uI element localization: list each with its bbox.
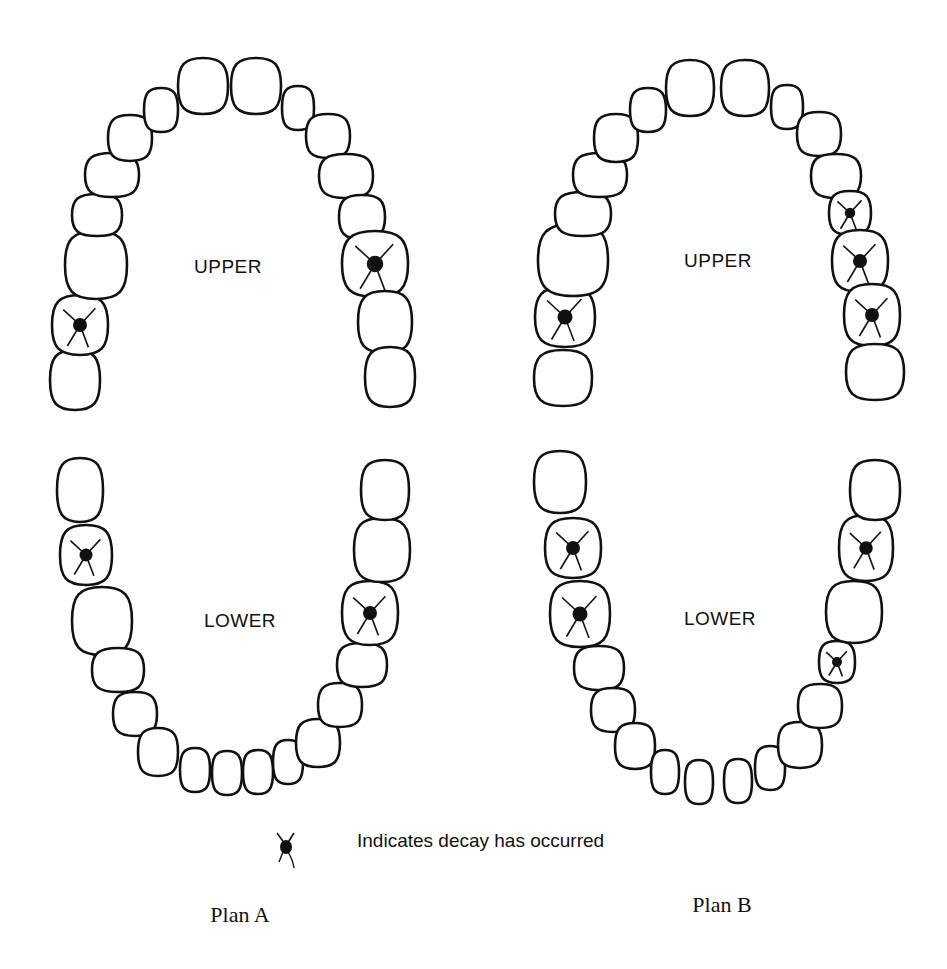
tooth <box>72 194 122 236</box>
tooth <box>555 192 611 236</box>
decay-dot-icon <box>566 541 580 555</box>
decay-dot-icon <box>859 541 873 555</box>
decayed-tooth <box>839 515 893 581</box>
teeth-drawing <box>0 0 947 969</box>
decayed-tooth <box>342 581 398 645</box>
tooth <box>685 760 713 804</box>
tooth <box>318 683 362 727</box>
legend-text: Indicates decay has occurred <box>357 830 604 852</box>
tooth <box>243 750 273 794</box>
tooth <box>361 460 409 520</box>
tooth <box>212 751 242 795</box>
tooth <box>615 723 655 769</box>
tooth <box>354 518 410 582</box>
plan-b-upper-arch <box>534 60 904 406</box>
tooth <box>65 231 127 299</box>
tooth <box>319 154 373 198</box>
decay-dot-icon <box>73 318 87 332</box>
tooth <box>365 347 415 407</box>
decay-dot-icon <box>367 256 384 273</box>
tooth <box>92 648 144 692</box>
tooth <box>72 587 132 655</box>
tooth <box>666 60 714 116</box>
tooth <box>798 684 842 728</box>
decayed-tooth <box>550 581 610 647</box>
decayed-tooth <box>52 295 108 355</box>
plan-b-upper-label: UPPER <box>684 250 752 272</box>
tooth <box>630 88 666 132</box>
tooth <box>574 646 624 690</box>
decay-dot-icon <box>853 254 867 268</box>
tooth <box>180 748 210 792</box>
tooth <box>144 88 178 132</box>
decayed-tooth <box>60 525 112 585</box>
tooth <box>57 458 103 522</box>
decayed-tooth <box>545 518 601 578</box>
decayed-tooth <box>829 191 871 235</box>
plan-a-upper-label: UPPER <box>194 256 262 278</box>
tooth <box>50 350 100 410</box>
decay-marker-icon <box>272 830 312 880</box>
decay-dot-icon <box>363 606 377 620</box>
tooth <box>358 291 412 353</box>
decayed-tooth <box>342 231 408 297</box>
tooth <box>721 60 769 116</box>
decay-dot-icon <box>558 310 573 325</box>
decay-dot-icon <box>845 208 856 219</box>
decayed-tooth <box>832 230 888 292</box>
decay-dot-icon <box>832 657 842 667</box>
tooth <box>534 451 586 513</box>
tooth <box>306 114 350 158</box>
tooth <box>231 58 281 114</box>
decayed-tooth <box>844 284 900 346</box>
decayed-tooth <box>819 641 855 683</box>
decay-dot-icon <box>573 607 588 622</box>
tooth <box>534 350 592 406</box>
tooth <box>826 581 882 643</box>
decay-dot-icon <box>80 549 93 562</box>
plan-b-label: Plan B <box>692 892 751 918</box>
tooth <box>337 643 387 687</box>
tooth <box>850 460 900 520</box>
tooth <box>178 58 228 114</box>
tooth <box>846 344 904 400</box>
plan-a-label: Plan A <box>210 902 269 928</box>
plan-a-lower-label: LOWER <box>204 610 276 632</box>
plan-b-lower-label: LOWER <box>684 608 756 630</box>
decay-dot-icon <box>865 308 879 322</box>
tooth <box>797 112 841 156</box>
dental-decay-diagram: UPPER LOWER UPPER LOWER Indicates decay … <box>0 0 947 969</box>
tooth <box>138 728 178 776</box>
plan-a-upper-arch <box>50 58 415 410</box>
tooth <box>651 750 679 794</box>
tooth <box>724 759 752 803</box>
